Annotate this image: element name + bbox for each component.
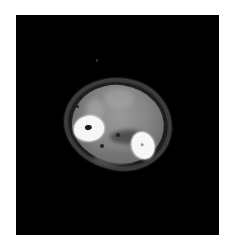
muscle-highlight — [104, 89, 134, 109]
left-bone-marrow — [85, 125, 93, 131]
vessel-spot — [76, 105, 79, 108]
ct-scan-image — [16, 15, 219, 235]
right-bone-marrow — [140, 143, 144, 147]
vessel-spot — [116, 133, 120, 137]
muscle-lower-region — [94, 151, 134, 165]
vessel-spot — [100, 144, 104, 148]
image-artifact-speck — [96, 59, 98, 62]
